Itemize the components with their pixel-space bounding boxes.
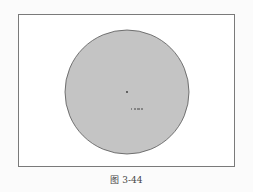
circle-diagram	[0, 0, 253, 192]
center-point	[126, 91, 128, 93]
figure-caption: 图 3-44	[0, 173, 253, 186]
